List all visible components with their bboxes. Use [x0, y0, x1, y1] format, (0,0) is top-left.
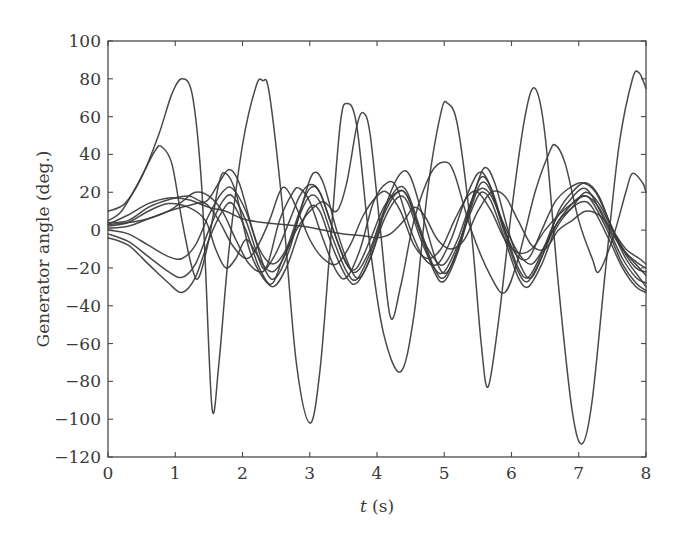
x-tick-label: 5	[439, 463, 450, 483]
y-tick-label: 60	[79, 107, 101, 127]
y-tick-label: 20	[79, 182, 101, 202]
plot-frame	[108, 41, 646, 457]
series-line-generator-4	[108, 167, 646, 286]
y-tick-label: −80	[65, 371, 101, 391]
y-tick-label: −120	[54, 447, 101, 467]
y-tick-label: −100	[54, 409, 101, 429]
x-tick-label: 4	[372, 463, 383, 483]
x-tick-label: 2	[237, 463, 248, 483]
x-axis-label: t (s)	[360, 496, 394, 516]
series-layer	[108, 71, 646, 444]
y-tick-label: 40	[79, 144, 101, 164]
x-tick-label: 6	[506, 463, 517, 483]
x-tick-label: 8	[641, 463, 652, 483]
x-tick-label: 3	[304, 463, 315, 483]
y-tick-label: 100	[69, 31, 101, 51]
x-axis-ticks: 012345678	[103, 41, 652, 483]
x-tick-label: 0	[103, 463, 114, 483]
y-tick-label: −40	[65, 296, 101, 316]
y-tick-label: 0	[90, 220, 101, 240]
y-tick-label: −20	[65, 258, 101, 278]
x-tick-label: 1	[170, 463, 181, 483]
x-axis-unit: (s)	[367, 496, 394, 516]
y-axis-ticks: 100806040200−20−40−60−80−100−120	[54, 31, 646, 467]
y-tick-label: −60	[65, 334, 101, 354]
y-tick-label: 80	[79, 69, 101, 89]
y-axis-label: Generator angle (deg.)	[33, 151, 53, 348]
x-tick-label: 7	[573, 463, 584, 483]
chart: 012345678 100806040200−20−40−60−80−100−1…	[0, 0, 678, 541]
